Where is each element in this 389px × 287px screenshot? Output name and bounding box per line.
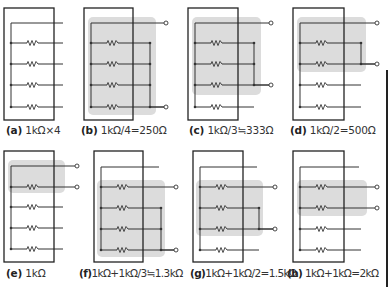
junction-dot xyxy=(90,42,93,45)
junction-dot xyxy=(90,84,93,87)
junction-dot xyxy=(299,63,302,66)
panel-d xyxy=(293,8,379,120)
junction-dot xyxy=(194,106,197,109)
panel-f xyxy=(94,151,178,262)
terminal-icon xyxy=(273,227,277,231)
junction-dot xyxy=(100,186,103,189)
terminal-icon xyxy=(174,185,178,189)
terminal-icon xyxy=(375,206,379,210)
caption-g-label: (g) xyxy=(190,267,205,279)
junction-dot xyxy=(10,42,13,45)
panel-a xyxy=(4,8,63,120)
caption-e: (e) 1kΩ xyxy=(6,267,45,279)
junction-dot xyxy=(258,207,261,210)
terminal-icon xyxy=(164,105,168,109)
junction-dot xyxy=(149,84,152,87)
junction-dot xyxy=(90,63,93,66)
resistor-icon xyxy=(316,227,327,232)
terminal-icon xyxy=(375,185,379,189)
resistor-icon xyxy=(27,83,38,88)
highlight-region xyxy=(97,180,165,257)
junction-dot xyxy=(10,106,13,109)
junction-dot xyxy=(149,42,152,45)
terminal-icon xyxy=(75,185,79,189)
resistor-icon xyxy=(27,226,38,231)
panel-b xyxy=(84,8,168,120)
junction-dot xyxy=(299,106,302,109)
junction-dot xyxy=(160,228,163,231)
caption-g-text: 1kΩ+1kΩ/2=1.5kΩ xyxy=(205,267,296,279)
junction-dot xyxy=(10,63,13,66)
caption-d-text: 1kΩ/2=500Ω xyxy=(310,124,376,136)
caption-h-text: 1kΩ+1kΩ=2kΩ xyxy=(305,267,378,279)
junction-dot xyxy=(149,63,152,66)
junction-dot xyxy=(90,106,93,109)
resistor-icon xyxy=(316,248,327,253)
junction-dot xyxy=(199,207,202,210)
resistor-icon xyxy=(216,248,227,253)
junction-dot xyxy=(360,42,363,45)
junction-dot xyxy=(253,42,256,45)
terminal-icon xyxy=(164,21,168,25)
caption-f-text: 1kΩ+1kΩ/3≒1.3kΩ xyxy=(91,267,182,279)
junction-dot xyxy=(199,249,202,252)
junction-dot xyxy=(10,248,13,251)
junction-dot xyxy=(100,228,103,231)
highlight-region xyxy=(88,17,156,115)
caption-f: (f)1kΩ+1kΩ/3≒1.3kΩ xyxy=(79,267,183,279)
junction-dot xyxy=(10,227,13,230)
terminal-icon xyxy=(75,164,79,168)
resistor-icon xyxy=(316,105,327,110)
junction-dot xyxy=(199,228,202,231)
junction-dot xyxy=(253,63,256,66)
highlight-region xyxy=(297,180,367,216)
junction-dot xyxy=(299,249,302,252)
caption-c-label: (c) xyxy=(189,124,204,136)
caption-a: (a) 1kΩ×4 xyxy=(6,124,61,136)
terminal-icon xyxy=(375,21,379,25)
junction-dot xyxy=(299,84,302,87)
terminal-icon xyxy=(269,21,273,25)
resistor-icon xyxy=(27,41,38,46)
junction-dot xyxy=(194,63,197,66)
caption-b-text: 1kΩ/4=250Ω xyxy=(101,124,167,136)
resistor-icon xyxy=(27,247,38,252)
resistor-icon xyxy=(211,105,222,110)
terminal-icon xyxy=(273,185,277,189)
caption-f-label: (f) xyxy=(79,267,91,279)
terminal-icon xyxy=(174,248,178,252)
caption-h: (h) 1kΩ+1kΩ=2kΩ xyxy=(287,267,378,279)
junction-dot xyxy=(10,186,13,189)
panel-h xyxy=(293,151,379,262)
junction-dot xyxy=(299,207,302,210)
terminal-icon xyxy=(375,62,379,66)
resistor-icon xyxy=(316,83,327,88)
junction-dot xyxy=(10,206,13,209)
junction-dot xyxy=(199,186,202,189)
resistor-icon xyxy=(27,62,38,67)
caption-c-text: 1kΩ/3≒333Ω xyxy=(207,124,273,136)
junction-dot xyxy=(160,207,163,210)
terminal-icon xyxy=(269,83,273,87)
caption-b: (b) 1kΩ/4=250Ω xyxy=(81,124,167,136)
caption-a-label: (a) xyxy=(6,124,22,136)
caption-e-label: (e) xyxy=(6,267,22,279)
caption-d: (d) 1kΩ/2=500Ω xyxy=(290,124,376,136)
caption-g: (g)1kΩ+1kΩ/2=1.5kΩ xyxy=(190,267,297,279)
caption-a-text: 1kΩ×4 xyxy=(25,124,60,136)
caption-d-label: (d) xyxy=(290,124,307,136)
panel-e xyxy=(4,151,79,262)
panel-g xyxy=(193,151,277,262)
caption-c: (c) 1kΩ/3≒333Ω xyxy=(189,124,273,136)
junction-dot xyxy=(299,228,302,231)
caption-h-label: (h) xyxy=(287,267,302,279)
caption-b-label: (b) xyxy=(81,124,98,136)
junction-dot xyxy=(100,207,103,210)
highlight-region xyxy=(192,17,261,95)
resistor-icon xyxy=(27,205,38,210)
page-edge-bar xyxy=(386,70,388,287)
resistor-network-diagram xyxy=(0,0,389,287)
junction-dot xyxy=(299,42,302,45)
junction-dot xyxy=(194,84,197,87)
panel-c xyxy=(188,8,273,120)
